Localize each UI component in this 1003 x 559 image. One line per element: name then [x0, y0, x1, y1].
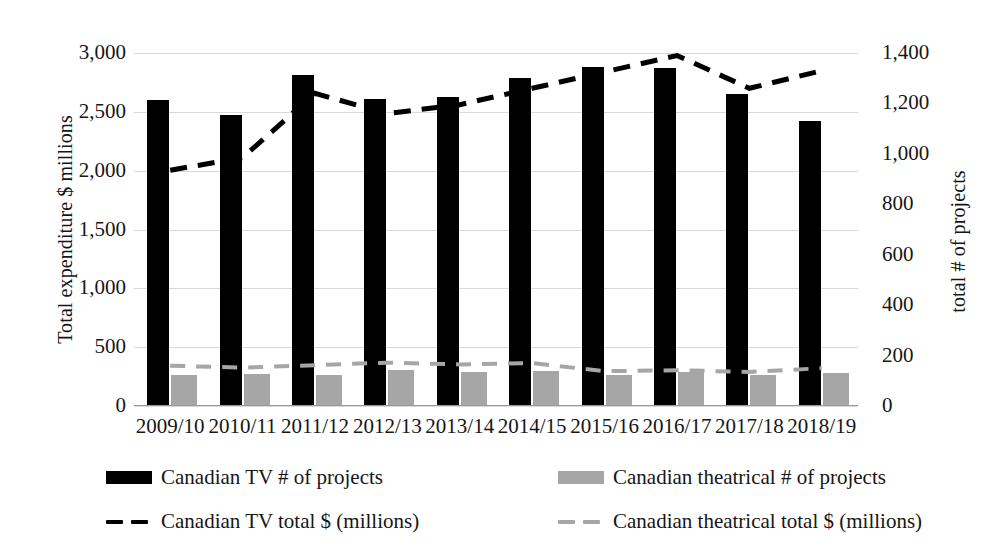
x-axis-tick-label: 2012/13 [351, 414, 423, 438]
y-axis-right-tick-label: 200 [882, 345, 914, 366]
x-axis-labels: 2009/102010/112011/122012/132013/142014/… [134, 414, 858, 444]
x-axis-tick-label: 2015/16 [568, 414, 640, 438]
legend-item-label: Canadian theatrical total $ (millions) [613, 509, 922, 533]
line-layer [134, 53, 858, 406]
x-axis-baseline [134, 405, 858, 406]
line-tv-total-dollars [170, 56, 822, 171]
y-axis-left-tick-label: 2,500 [79, 101, 126, 122]
x-axis-tick-label: 2011/12 [279, 414, 351, 438]
x-axis-tick-label: 2013/14 [424, 414, 496, 438]
legend-item[interactable]: Canadian TV # of projects [106, 462, 383, 492]
y-axis-right-tick-label: 800 [882, 193, 914, 214]
y-axis-left-tick-label: 2,000 [79, 160, 126, 181]
y-axis-left-tick-label: 1,500 [79, 219, 126, 240]
x-axis-tick-label: 2016/17 [641, 414, 713, 438]
y-axis-left-tick-label: 500 [95, 336, 127, 357]
y-axis-left-tick-label: 3,000 [79, 42, 126, 63]
y-axis-right-tick-label: 600 [882, 244, 914, 265]
legend-swatch-dashed-line-icon [106, 515, 152, 528]
legend-item[interactable]: Canadian TV total $ (millions) [106, 506, 419, 536]
y-axis-right-tick-label: 1,000 [882, 143, 929, 164]
y-axis-right-tick-label: 0 [882, 395, 893, 416]
legend-item-label: Canadian TV total $ (millions) [161, 509, 419, 533]
plot-area [134, 53, 858, 406]
y-axis-right-tick-label: 1,400 [882, 42, 929, 63]
x-axis-tick-label: 2017/18 [713, 414, 785, 438]
chart-legend: Canadian TV # of projectsCanadian theatr… [106, 462, 966, 548]
x-axis-tick-label: 2009/10 [134, 414, 206, 438]
y-axis-left-tick-label: 0 [116, 395, 127, 416]
line-theatrical-total-dollars [170, 363, 822, 372]
legend-swatch-dashed-line-icon [558, 515, 604, 528]
gridline [134, 406, 858, 407]
legend-swatch-box-icon [106, 471, 152, 484]
y-axis-right-tick-label: 1,200 [882, 92, 929, 113]
y-axis-right-tick-label: 400 [882, 294, 914, 315]
x-axis-tick-label: 2010/11 [206, 414, 278, 438]
y-axis-left-tick-label: 1,000 [79, 277, 126, 298]
y-axis-right-title: total # of projects [947, 107, 970, 377]
legend-item-label: Canadian TV # of projects [161, 465, 383, 489]
legend-swatch-box-icon [558, 471, 604, 484]
legend-item[interactable]: Canadian theatrical total $ (millions) [558, 506, 922, 536]
legend-item-label: Canadian theatrical # of projects [613, 465, 886, 489]
x-axis-tick-label: 2018/19 [786, 414, 858, 438]
x-axis-tick-label: 2014/15 [496, 414, 568, 438]
legend-item[interactable]: Canadian theatrical # of projects [558, 462, 886, 492]
chart-container: Total expenditure $ millions 05001,0001,… [0, 0, 1003, 559]
